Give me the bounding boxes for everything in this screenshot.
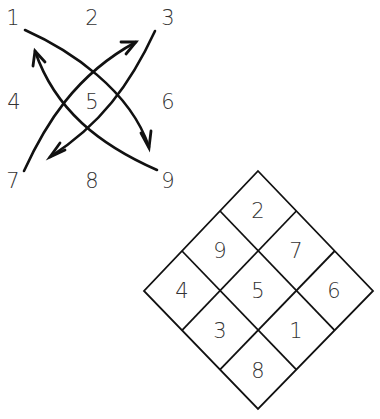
grid-number-label: 9 [161,169,174,193]
left-figure-paths: 123456789 [6,6,174,193]
right-figure-diamond-grid: 297456318 [144,171,373,409]
grid-number-label: 7 [6,169,19,193]
magic-square-cell-number: 1 [289,319,302,343]
grid-line [182,211,296,330]
magic-square-cell-number: 2 [251,199,264,223]
grid-number-label: 4 [7,90,20,114]
magic-square-cell-number: 3 [213,319,226,343]
magic-square-cell-number: 6 [327,279,340,303]
grid-number-label: 6 [161,90,174,114]
grid-line [220,251,335,370]
diagram-canvas: 123456789 297456318 [0,0,380,419]
magic-square-cell-number: 7 [289,239,302,263]
grid-number-label: 8 [85,169,98,193]
magic-square-cell-number: 9 [213,239,226,263]
grid-line [182,251,296,370]
grid-line [220,211,335,330]
arrow-3-to-7 [50,31,155,157]
grid-number-label: 1 [6,6,19,30]
magic-square-cell-number: 8 [251,359,264,383]
magic-square-cell-number: 4 [175,279,188,303]
grid-number-label: 2 [85,6,98,30]
arrowhead-icon [50,143,65,157]
magic-square-cell-number: 5 [251,279,264,303]
grid-number-label: 3 [161,6,174,30]
grid-number-label: 5 [85,90,98,114]
arrowhead-icon [141,131,151,148]
curve-line [50,31,155,157]
